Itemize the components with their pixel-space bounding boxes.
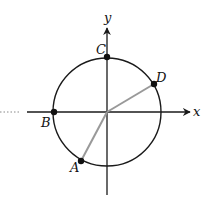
radius-line-a xyxy=(81,112,107,161)
point-label-d: D xyxy=(155,70,167,85)
x-axis-label: x xyxy=(193,104,201,119)
point-label-c: C xyxy=(96,42,106,57)
y-axis-label: y xyxy=(103,10,112,25)
point-label-b: B xyxy=(40,115,51,130)
radius-line-d xyxy=(107,84,154,112)
point-b xyxy=(51,109,57,115)
point-label-a: A xyxy=(69,160,79,175)
unit-circle-diagram: A B C D x y xyxy=(0,0,218,199)
